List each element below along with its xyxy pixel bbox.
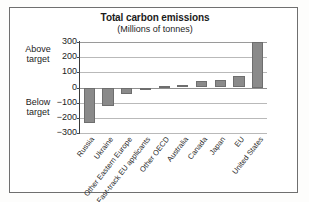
page-title: Total carbon emissions: [60, 12, 250, 24]
chart-subtitle: (Millions of tonnes): [60, 24, 250, 35]
x-axis-tick-labels: RussiaUkraineOther Eastern EuropeFast-tr…: [80, 135, 280, 197]
bar-canada: [196, 81, 207, 87]
y-tick-label-300: 300: [47, 37, 77, 46]
y-tick-label--100: −100: [47, 98, 77, 107]
y-tick-label-200: 200: [47, 52, 77, 61]
x-tick-label-text: EU: [233, 135, 247, 149]
y-tick-mark--300: [77, 133, 80, 134]
bar-fast-track-eu-applicants: [140, 88, 151, 90]
chart-figure: Total carbon emissions (Millions of tonn…: [0, 0, 309, 202]
y-tick-label--200: −200: [47, 113, 77, 122]
chart-title-block: Total carbon emissions (Millions of tonn…: [60, 12, 250, 35]
bar-ukraine: [102, 88, 113, 107]
bar-united-states: [252, 42, 263, 88]
y-tick-label-100: 100: [47, 67, 77, 76]
bar-other-eastern-europe: [121, 88, 132, 95]
bar-russia: [84, 88, 95, 124]
y-tick-label-0: 0: [47, 83, 77, 92]
y-tick-label--300: −300: [47, 128, 77, 137]
bar-japan: [215, 80, 226, 88]
bar-eu: [233, 76, 244, 88]
